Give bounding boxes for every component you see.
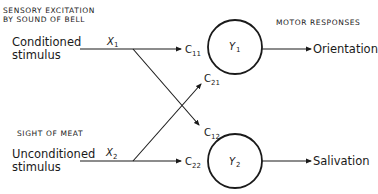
weight-c12: C 12 (204, 127, 220, 141)
var-x2: X 2 (105, 147, 117, 161)
line-x1-c12 (133, 49, 199, 125)
heading-sight-of-meat: SIGHT OF MEAT (17, 129, 83, 138)
svg-text:C: C (204, 127, 211, 138)
svg-text:22: 22 (192, 162, 201, 170)
svg-text:C: C (185, 44, 192, 55)
line-x2-c21 (133, 84, 201, 161)
svg-text:2: 2 (236, 161, 240, 169)
svg-text:21: 21 (211, 79, 220, 87)
svg-text:1: 1 (114, 41, 118, 49)
svg-text:11: 11 (192, 50, 201, 58)
output-salivation: Salivation (313, 154, 370, 168)
output-orientation: Orientation (313, 42, 378, 56)
svg-text:1: 1 (236, 46, 240, 54)
connection-lines (80, 49, 311, 161)
heading-motor-responses: MOTOR RESPONSES (276, 18, 360, 27)
input-label-conditioned: Conditioned (12, 35, 81, 49)
weight-c11: C 11 (185, 44, 201, 58)
svg-text:C: C (185, 156, 192, 167)
svg-text:Y: Y (229, 156, 236, 167)
svg-text:C: C (204, 73, 211, 84)
heading-sensory-excitation: SENSORY EXCITATION (3, 6, 95, 15)
weight-c21: C 21 (204, 73, 220, 87)
node-y1-label: Y 1 (229, 41, 240, 54)
input-label-unconditioned: Unconditioned (12, 147, 95, 161)
conditioning-network-diagram: SENSORY EXCITATION BY SOUND OF BELL SIGH… (0, 0, 378, 194)
node-y2-label: Y 2 (229, 156, 240, 169)
weight-c22: C 22 (185, 156, 201, 170)
svg-text:2: 2 (113, 153, 117, 161)
svg-text:Y: Y (229, 41, 236, 52)
input-label-conditioned-stimulus: stimulus (12, 48, 61, 62)
var-x1: X 1 (106, 36, 118, 49)
heading-sound-of-bell: BY SOUND OF BELL (3, 15, 85, 24)
input-label-unconditioned-stimulus: stimulus (12, 160, 61, 174)
